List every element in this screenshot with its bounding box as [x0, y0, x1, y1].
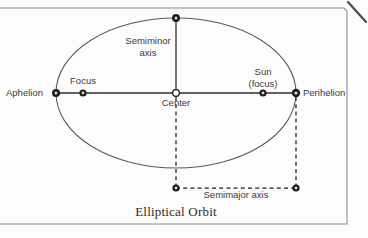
- figure-canvas: Aphelion Focus Center Sun (focus) Perihe…: [0, 0, 368, 238]
- label-sun-focus: (focus): [248, 78, 277, 89]
- label-perihelion: Perihelion: [303, 87, 345, 98]
- frame-border: [0, 8, 347, 224]
- page-corner-curl-icon: [348, 2, 366, 22]
- label-aphelion: Aphelion: [6, 87, 43, 98]
- label-center: Center: [162, 97, 191, 108]
- label-focus-left: Focus: [70, 75, 96, 86]
- figure-title: Elliptical Orbit: [135, 204, 217, 219]
- point-marker-semiminor-top: [172, 14, 180, 22]
- label-semiminor-axis: axis: [140, 47, 157, 58]
- point-marker-projection-center: [172, 184, 179, 191]
- label-sun: Sun: [255, 66, 272, 77]
- label-semimajor-axis: Semimajor axis: [204, 189, 269, 200]
- point-marker-projection-perihelion: [292, 184, 299, 191]
- point-marker-perihelion: [292, 89, 300, 97]
- elliptical-orbit-diagram: Aphelion Focus Center Sun (focus) Perihe…: [0, 0, 368, 238]
- point-marker-center: [173, 90, 180, 97]
- point-marker-focus-left: [79, 89, 86, 96]
- label-semiminor: Semiminor: [125, 35, 170, 46]
- point-marker-aphelion: [52, 89, 60, 97]
- page-frame: [0, 2, 366, 224]
- point-marker-sun-focus: [259, 89, 266, 96]
